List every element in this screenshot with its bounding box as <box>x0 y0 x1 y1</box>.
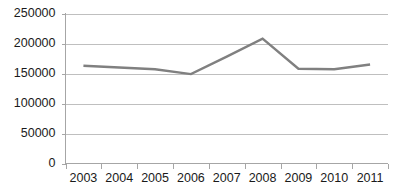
gridlines-group <box>66 15 389 135</box>
x-axis-tick-marks <box>67 164 389 169</box>
x-axis-tick-label: 2003 <box>70 171 98 185</box>
x-axis-tick-label: 2005 <box>141 171 169 185</box>
y-axis-tick-label: 0 <box>49 156 56 170</box>
x-axis-tick-label: 2008 <box>249 171 277 185</box>
y-axis-tick-label: 100000 <box>14 96 56 110</box>
x-axis-tick-label: 2010 <box>320 171 348 185</box>
x-axis-tick-label: 2009 <box>285 171 313 185</box>
chart-canvas: 050000100000150000200000250000 200320042… <box>0 0 399 196</box>
y-axis-tick-label: 200000 <box>14 36 56 50</box>
x-axis-tick-label: 2011 <box>357 171 384 185</box>
y-axis-tick-label: 250000 <box>14 6 56 20</box>
x-axis-tick-label: 2007 <box>213 171 241 185</box>
line-chart: 050000100000150000200000250000 200320042… <box>0 0 399 196</box>
x-axis-tick-label: 2006 <box>177 171 205 185</box>
x-axis-tick-label: 2004 <box>105 171 133 185</box>
x-axis-tick-labels: 200320042005200620072008200920102011 <box>70 171 384 185</box>
y-axis-tick-labels: 050000100000150000200000250000 <box>14 6 66 170</box>
y-axis-tick-label: 50000 <box>21 126 56 140</box>
y-axis-tick-label: 150000 <box>14 66 56 80</box>
